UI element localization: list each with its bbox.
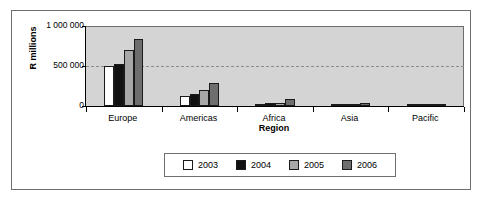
- plot-inner: [86, 26, 464, 106]
- x-tickmark: [162, 107, 163, 112]
- x-tickmark: [313, 107, 314, 112]
- x-category-label-pacific: Pacific: [385, 113, 465, 123]
- bar-asia-2005: [351, 104, 361, 106]
- x-tickmark: [464, 107, 465, 112]
- legend-label: 2006: [357, 160, 377, 170]
- x-tickmark: [388, 107, 389, 112]
- plot-area: [85, 26, 464, 107]
- bar-group: [255, 26, 294, 106]
- bar-group: [407, 26, 446, 106]
- bar-asia-2003: [331, 104, 341, 106]
- chart-legend: 2003200420052006: [164, 153, 396, 177]
- x-category-label-americas: Americas: [158, 113, 238, 123]
- legend-swatch-icon: [289, 160, 299, 170]
- legend-item-2003: 2003: [183, 160, 218, 170]
- chart-frame: R millions 0500 0001 000 000 Region 2003…: [11, 10, 471, 190]
- x-category-label-europe: Europe: [83, 113, 163, 123]
- bar-africa-2006: [285, 99, 295, 106]
- bar-europe-2003: [104, 66, 114, 106]
- x-tickmark: [86, 107, 87, 112]
- x-axis-title: Region: [85, 123, 463, 133]
- legend-swatch-icon: [236, 160, 246, 170]
- y-tick-label: 1 000 000: [26, 20, 84, 30]
- legend-item-2006: 2006: [342, 160, 377, 170]
- x-tickmark: [237, 107, 238, 112]
- legend-swatch-icon: [183, 160, 193, 170]
- bar-africa-2004: [265, 103, 275, 106]
- bar-africa-2003: [255, 104, 265, 106]
- bar-americas-2005: [199, 90, 209, 106]
- legend-label: 2005: [304, 160, 324, 170]
- y-tick-label: 0: [26, 100, 84, 110]
- bar-asia-2004: [341, 104, 351, 106]
- bar-europe-2006: [134, 39, 144, 106]
- y-axis-tick-labels: 0500 0001 000 000: [22, 11, 84, 189]
- y-tickmark: [82, 26, 86, 27]
- bar-asia-2006: [360, 103, 370, 106]
- bar-pacific-2006: [436, 104, 446, 106]
- bar-group: [180, 26, 219, 106]
- bar-group: [331, 26, 370, 106]
- y-tick-label: 500 000: [26, 60, 84, 70]
- bar-pacific-2003: [407, 104, 417, 106]
- legend-swatch-icon: [342, 160, 352, 170]
- bar-americas-2004: [190, 94, 200, 106]
- bar-pacific-2005: [426, 104, 436, 106]
- bar-europe-2004: [114, 64, 124, 106]
- bar-europe-2005: [124, 50, 134, 106]
- legend-item-2005: 2005: [289, 160, 324, 170]
- legend-item-2004: 2004: [236, 160, 271, 170]
- bar-africa-2005: [275, 103, 285, 106]
- bar-americas-2003: [180, 96, 190, 106]
- x-category-label-africa: Africa: [234, 113, 314, 123]
- bar-group: [104, 26, 143, 106]
- bar-pacific-2004: [416, 104, 426, 106]
- legend-label: 2004: [251, 160, 271, 170]
- bar-americas-2006: [209, 83, 219, 106]
- legend-label: 2003: [198, 160, 218, 170]
- x-category-label-asia: Asia: [310, 113, 390, 123]
